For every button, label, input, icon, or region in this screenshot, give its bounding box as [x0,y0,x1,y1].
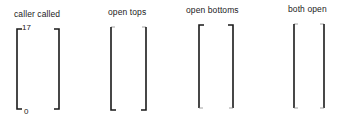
top-index-value: 17 [22,23,31,32]
left-bracket [111,27,116,110]
right-bracket [54,29,59,109]
left-bracket [17,29,22,109]
right-bracket [141,27,146,110]
panel-title-open-tops: open tops [108,7,146,17]
panel-title-caller-called: caller called [14,9,60,19]
left-bracket [199,25,204,108]
panel-title-both-open: both open [288,4,327,14]
right-bracket [228,25,233,108]
panel-caller-called [17,29,59,109]
panel-open-tops [111,27,146,110]
panel-title-open-bottoms: open bottoms [186,5,239,15]
bottom-index-value: 0 [24,107,28,116]
panel-open-bottoms [199,25,233,108]
panel-both-open [294,24,324,108]
